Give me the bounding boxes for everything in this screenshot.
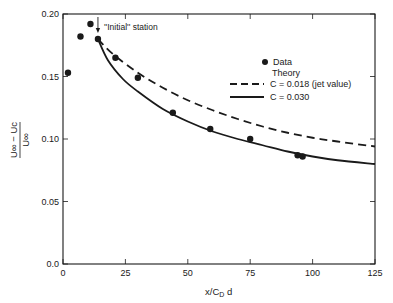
- data-point-marker: [299, 153, 305, 159]
- x-tick-label: 75: [245, 268, 255, 278]
- data-point-marker: [65, 70, 71, 76]
- data-point-marker: [77, 33, 83, 39]
- y-tick-label: 0.20: [41, 9, 59, 19]
- data-point-marker: [207, 126, 213, 132]
- data-point-marker: [95, 36, 101, 42]
- x-label-tail: d: [224, 286, 232, 297]
- data-point-marker: [112, 55, 118, 61]
- y-tick-label: 0.05: [41, 197, 59, 207]
- annotation-text: ''Initial'' station: [104, 22, 158, 32]
- legend: Data Theory C = 0.018 (jet value) C = 0.…: [230, 57, 351, 102]
- legend-data-marker-icon: [262, 59, 268, 65]
- x-axis-label: x/CD d: [205, 286, 232, 298]
- x-tick-label: 50: [183, 268, 193, 278]
- annotation-initial-station: ''Initial'' station: [96, 17, 158, 33]
- y-label-denominator: U∞: [20, 133, 31, 147]
- legend-entry-030: C = 0.030: [270, 92, 309, 102]
- y-tick-label: 0.10: [41, 134, 59, 144]
- legend-data-label: Data: [273, 57, 292, 67]
- x-axis-ticks: 0255075100125: [60, 14, 382, 278]
- data-point-marker: [135, 75, 141, 81]
- arrowhead-icon: [96, 28, 100, 33]
- legend-theory-heading: Theory: [272, 68, 301, 78]
- x-tick-label: 25: [120, 268, 130, 278]
- legend-entry-jet: C = 0.018 (jet value): [270, 79, 351, 89]
- data-point-marker: [170, 110, 176, 116]
- x-tick-label: 0: [60, 268, 65, 278]
- data-point-marker: [247, 136, 253, 142]
- x-tick-label: 125: [367, 268, 382, 278]
- data-point-marker: [87, 21, 93, 27]
- theory-curves: [98, 39, 375, 164]
- x-tick-label: 100: [305, 268, 320, 278]
- y-label-numerator: U∞ − Uc: [8, 122, 19, 158]
- y-tick-label: 0.0: [46, 259, 59, 269]
- theory-curve-030: [98, 39, 375, 164]
- x-label-main: x/C: [205, 286, 219, 297]
- y-tick-label: 0.15: [41, 72, 59, 82]
- chart-canvas: 0255075100125 0.00.050.100.150.20 ''Init…: [0, 0, 393, 303]
- y-axis-label: U∞ − Uc U∞: [8, 122, 31, 158]
